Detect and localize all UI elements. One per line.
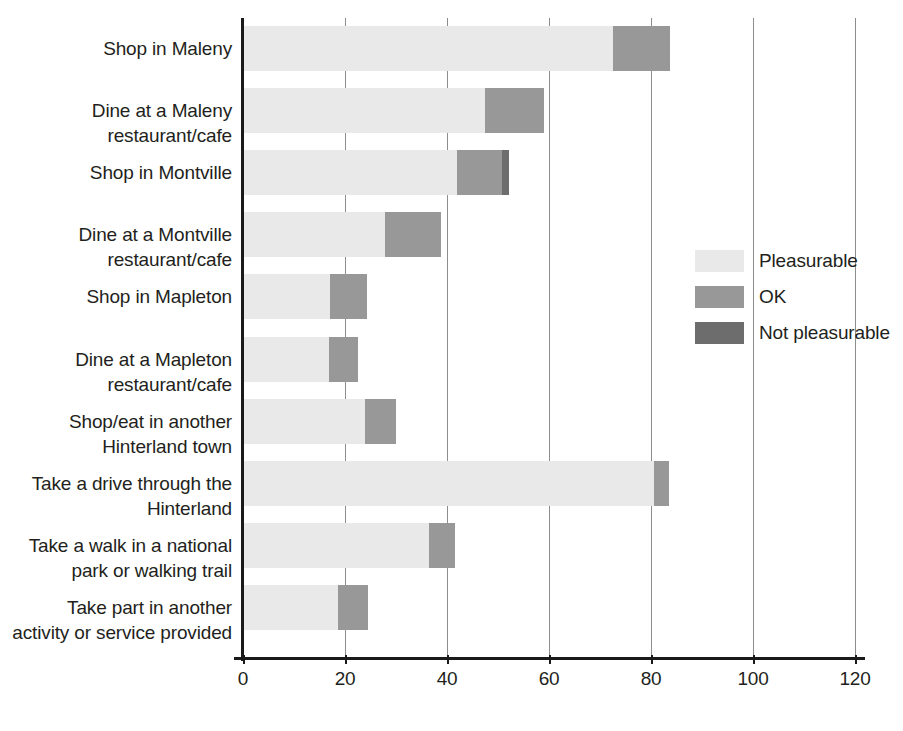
bar-segment-ok — [457, 150, 502, 195]
bar-segment-ok — [329, 337, 358, 382]
legend: PleasurableOKNot pleasurable — [695, 243, 890, 351]
tick-mark-0 — [243, 655, 245, 664]
category-label: Shop in Maleny — [0, 36, 232, 61]
category-label-line: Hinterland — [0, 496, 232, 521]
category-label: Take a walk in a nationalpark or walking… — [0, 533, 232, 583]
legend-item[interactable]: OK — [695, 279, 890, 315]
bar-segment-ok — [330, 274, 368, 319]
legend-item[interactable]: Not pleasurable — [695, 315, 890, 351]
x-axis-tick-label: 20 — [315, 668, 375, 690]
gridline-60 — [549, 18, 550, 659]
category-label-line: Dine at a Montville — [0, 222, 232, 247]
category-label-line: activity or service provided — [0, 620, 232, 645]
bar-segment-ok — [429, 523, 455, 568]
x-axis-tick-label: 40 — [417, 668, 477, 690]
tick-mark-100 — [753, 655, 755, 664]
category-label: Dine at a Montvillerestaurant/cafe — [0, 222, 232, 272]
bar-segment-not-pleasurable — [502, 150, 509, 195]
x-axis-tick-label: 100 — [723, 668, 783, 690]
bar-segment-pleasurable — [243, 337, 329, 382]
legend-label: OK — [759, 286, 786, 308]
legend-label: Pleasurable — [759, 250, 858, 272]
category-label: Take a drive through theHinterland — [0, 471, 232, 521]
bar-segment-ok — [654, 461, 669, 506]
category-label: Take part in anotheractivity or service … — [0, 595, 232, 645]
category-label-line: Shop in Mapleton — [0, 284, 232, 309]
category-label-line: Dine at a Maleny — [0, 98, 232, 123]
x-axis-tick-label: 0 — [213, 668, 273, 690]
category-label-line: restaurant/cafe — [0, 247, 232, 272]
tick-mark-80 — [651, 655, 653, 664]
category-label-line: Shop/eat in another — [0, 409, 232, 434]
category-label-line: Take part in another — [0, 595, 232, 620]
category-label-line: Shop in Maleny — [0, 36, 232, 61]
bar-segment-ok — [613, 26, 670, 71]
category-label: Dine at a Mapletonrestaurant/cafe — [0, 347, 232, 397]
legend-label: Not pleasurable — [759, 322, 890, 344]
bar-segment-pleasurable — [243, 399, 365, 444]
category-label-line: restaurant/cafe — [0, 123, 232, 148]
category-label-line: Take a walk in a national — [0, 533, 232, 558]
category-label-line: park or walking trail — [0, 558, 232, 583]
tick-mark-60 — [549, 655, 551, 664]
category-label-line: restaurant/cafe — [0, 372, 232, 397]
tick-mark-20 — [345, 655, 347, 664]
tick-mark-40 — [447, 655, 449, 664]
x-axis-tick-label: 120 — [825, 668, 885, 690]
category-label-line: Shop in Montville — [0, 160, 232, 185]
bar-segment-pleasurable — [243, 212, 385, 257]
y-axis-line — [241, 18, 244, 661]
bar-segment-ok — [385, 212, 442, 257]
category-label-line: Take a drive through the — [0, 471, 232, 496]
bar-segment-ok — [338, 585, 369, 630]
x-axis-tick-label: 60 — [519, 668, 579, 690]
x-axis-tick-label: 80 — [621, 668, 681, 690]
bar-segment-ok — [485, 88, 544, 133]
stacked-bar-chart: 020406080100120 Shop in MalenyDine at a … — [0, 0, 903, 731]
bar-segment-pleasurable — [243, 26, 613, 71]
category-label-line: Dine at a Mapleton — [0, 347, 232, 372]
category-label: Dine at a Malenyrestaurant/cafe — [0, 98, 232, 148]
legend-swatch — [695, 322, 744, 344]
legend-item[interactable]: Pleasurable — [695, 243, 890, 279]
bar-segment-pleasurable — [243, 461, 654, 506]
bar-segment-pleasurable — [243, 585, 338, 630]
legend-swatch — [695, 250, 744, 272]
tick-mark-120 — [855, 655, 857, 664]
category-label-line: Hinterland town — [0, 434, 232, 459]
category-label: Shop in Mapleton — [0, 284, 232, 309]
bar-segment-pleasurable — [243, 274, 330, 319]
bar-segment-ok — [365, 399, 396, 444]
bar-segment-pleasurable — [243, 150, 457, 195]
bar-segment-pleasurable — [243, 523, 429, 568]
legend-swatch — [695, 286, 744, 308]
category-label: Shop in Montville — [0, 160, 232, 185]
category-label: Shop/eat in anotherHinterland town — [0, 409, 232, 459]
bar-segment-pleasurable — [243, 88, 485, 133]
gridline-80 — [651, 18, 652, 659]
